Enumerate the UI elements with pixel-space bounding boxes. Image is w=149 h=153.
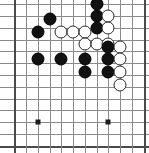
- black-stone: [32, 53, 45, 66]
- black-stone: [44, 13, 57, 26]
- black-stone: [79, 53, 92, 66]
- white-stone: [102, 22, 115, 35]
- black-stone: [55, 53, 68, 66]
- black-stone: [32, 26, 45, 39]
- stone-layer: [0, 0, 149, 153]
- white-stone: [114, 79, 127, 92]
- black-stone: [79, 66, 92, 79]
- go-board-diagram: [0, 0, 149, 153]
- goban: [0, 0, 149, 153]
- white-stone: [114, 66, 127, 79]
- white-stone: [114, 53, 127, 66]
